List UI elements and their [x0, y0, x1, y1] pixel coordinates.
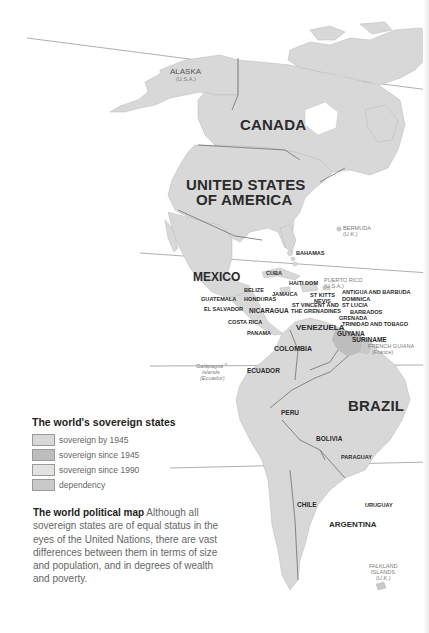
- label-nicaragua: NICARAGUA: [249, 308, 289, 315]
- legend-swatch: [32, 479, 55, 491]
- label-antigua: ANTIGUA AND BARBUDA: [342, 290, 411, 296]
- caption: The world political map Although all sov…: [33, 506, 228, 586]
- label-panama: PANAMA: [247, 331, 271, 337]
- legend-label: sovereign since 1990: [59, 465, 139, 475]
- label-el-salvador: EL SALVADOR: [204, 307, 243, 313]
- legend-title: The world's sovereign states: [32, 416, 176, 428]
- legend-swatch: [32, 449, 55, 461]
- label-puerto-rico-sub: (U.S.A.): [324, 284, 344, 290]
- label-usa-line1: UNITED STATES: [186, 177, 306, 192]
- label-paraguay: PARAGUAY: [341, 455, 372, 461]
- label-alaska-sub: (U.S.A.): [176, 77, 196, 83]
- label-honduras: HONDURAS: [244, 297, 276, 303]
- legend-swatch: [32, 434, 55, 446]
- label-argentina: ARGENTINA: [329, 521, 377, 529]
- legend-item-sovereign-since-1990: sovereign since 1990: [32, 462, 176, 477]
- label-cuba: CUBA: [266, 271, 282, 277]
- label-peru: PERU: [281, 410, 299, 417]
- page-edge: [423, 0, 429, 633]
- legend-item-sovereign-by-1945: sovereign by 1945: [32, 432, 176, 447]
- legend-item-sovereign-since-1945: sovereign since 1945: [32, 447, 176, 462]
- label-falkland-3: (U.K.): [376, 576, 391, 582]
- legend-swatch: [32, 464, 55, 476]
- label-alaska: ALASKA: [170, 68, 201, 76]
- label-french-guiana-sub: (France): [372, 350, 393, 356]
- label-st-vincent-2: THE GRENADINES: [291, 309, 341, 315]
- label-trinidad: TRINIDAD AND TOBAGO: [342, 322, 408, 328]
- label-bolivia: BOLIVIA: [316, 436, 342, 443]
- caption-title: The world political map: [33, 507, 144, 518]
- label-bermuda-sub: (U.K.): [343, 232, 358, 238]
- label-galapagos-3: (Ecuador): [200, 376, 225, 382]
- legend: The world's sovereign states sovereign b…: [32, 416, 176, 492]
- label-bahamas: BAHAMAS: [296, 251, 325, 257]
- label-uruguay: URUGUAY: [365, 503, 393, 509]
- label-ecuador: ECUADOR: [247, 368, 280, 375]
- label-guatemala: GUATEMALA: [201, 297, 236, 303]
- label-chile: CHILE: [297, 502, 317, 509]
- legend-label: dependency: [59, 480, 105, 490]
- label-brazil: BRAZIL: [348, 398, 404, 413]
- label-belize: BELIZE: [244, 288, 264, 294]
- label-usa-line2: OF AMERICA: [196, 192, 292, 207]
- label-mexico: MEXICO: [193, 271, 240, 283]
- label-haiti: HAITI: [289, 281, 304, 287]
- label-colombia: COLOMBIA: [274, 345, 312, 352]
- caption-body: Although all sovereign states are of equ…: [33, 507, 218, 584]
- legend-label: sovereign since 1945: [59, 450, 139, 460]
- legend-item-dependency: dependency: [32, 477, 176, 492]
- legend-label: sovereign by 1945: [59, 435, 128, 445]
- label-st-lucia: ST LUCIA: [342, 303, 368, 309]
- label-canada: CANADA: [240, 117, 306, 132]
- label-dom: DOM: [305, 281, 318, 287]
- label-costa-rica: COSTA RICA: [228, 320, 262, 326]
